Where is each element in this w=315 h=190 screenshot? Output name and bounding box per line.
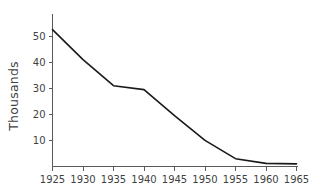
- x-tick-label: 1930: [70, 174, 95, 185]
- x-tick-label: 1945: [162, 174, 187, 185]
- line-chart: Thousands 1020304050 1925193019351940194…: [0, 0, 315, 190]
- x-tick-label: 1940: [131, 174, 156, 185]
- chart-canvas: Thousands 1020304050 1925193019351940194…: [0, 0, 315, 190]
- y-tick-label: 30: [33, 83, 46, 94]
- x-axis-ticks: 192519301935194019451950195519601965: [40, 167, 309, 185]
- x-tick-label: 1960: [253, 174, 278, 185]
- y-axis-title-label: Thousands: [6, 61, 21, 131]
- y-axis-title: Thousands: [6, 61, 21, 131]
- y-tick-label: 40: [33, 57, 46, 68]
- x-tick-label: 1925: [40, 174, 65, 185]
- y-tick-label: 20: [33, 109, 46, 120]
- x-tick-label: 1935: [101, 174, 126, 185]
- x-tick-label: 1950: [192, 174, 217, 185]
- data-series-line: [53, 30, 297, 164]
- x-tick-label: 1965: [284, 174, 309, 185]
- y-tick-label: 50: [33, 31, 46, 42]
- x-tick-label: 1955: [223, 174, 248, 185]
- y-tick-label: 10: [33, 135, 46, 146]
- y-axis-ticks: 1020304050: [33, 31, 53, 146]
